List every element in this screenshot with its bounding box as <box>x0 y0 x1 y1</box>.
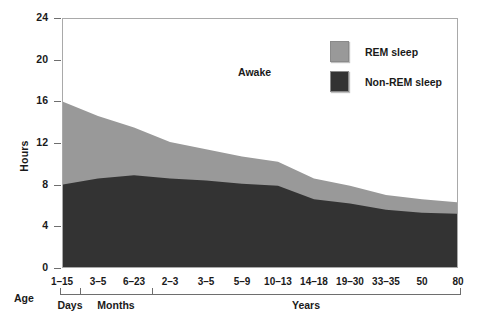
x-tick-label-7: 14–18 <box>300 276 328 287</box>
x-group-label-years: Years <box>292 299 320 311</box>
x-tick-label-6: 10–13 <box>264 276 292 287</box>
y-tick-mark-4 <box>54 226 61 227</box>
legend-label-non-rem-sleep: Non-REM sleep <box>365 76 442 88</box>
y-tick-label-8: 8 <box>22 178 48 190</box>
x-tick-label-9: 33–35 <box>372 276 400 287</box>
legend-item-rem-sleep: REM sleep <box>330 41 418 62</box>
y-tick-label-16: 16 <box>22 94 48 106</box>
x-tick-label-10: 50 <box>416 276 427 287</box>
x-tick-label-3: 2–3 <box>162 276 179 287</box>
x-group-bracket-line-1 <box>80 294 152 295</box>
x-tick-label-11: 80 <box>452 276 463 287</box>
y-tick-mark-8 <box>54 185 61 186</box>
y-tick-mark-0 <box>54 268 61 269</box>
x-tick-label-0: 1–15 <box>51 276 73 287</box>
legend-swatch-non-rem-sleep <box>330 71 349 92</box>
x-group-label-months: Months <box>97 299 134 311</box>
awake-annotation: Awake <box>238 66 271 78</box>
y-tick-label-4: 4 <box>22 219 48 231</box>
y-tick-label-20: 20 <box>22 53 48 65</box>
x-group-bracket-line-0 <box>60 294 80 295</box>
sleep-hours-area-chart: Hours 24201612840 Awake REM sleep Non-RE… <box>0 0 480 330</box>
x-axis-title: Age <box>14 292 34 304</box>
x-tick-label-1: 3–5 <box>90 276 107 287</box>
y-tick-mark-20 <box>54 60 61 61</box>
x-group-bracket-line-2 <box>152 294 460 295</box>
legend-label-rem-sleep: REM sleep <box>365 46 418 58</box>
area-non-rem-sleep <box>63 175 457 267</box>
x-group-label-days: Days <box>57 299 82 311</box>
x-group-bracket-tick-1-0 <box>80 288 81 295</box>
y-tick-mark-24 <box>54 18 61 19</box>
legend-swatch-rem-sleep <box>330 41 349 62</box>
x-group-bracket-tick-0-0 <box>60 288 61 295</box>
x-group-bracket-tick-2-0 <box>152 288 153 295</box>
x-tick-label-4: 3–5 <box>198 276 215 287</box>
y-tick-label-0: 0 <box>22 261 48 273</box>
x-tick-label-2: 6–23 <box>123 276 145 287</box>
legend-item-non-rem-sleep: Non-REM sleep <box>330 71 442 92</box>
x-group-bracket-tick-2-1 <box>460 288 461 295</box>
y-tick-mark-12 <box>54 143 61 144</box>
y-tick-mark-16 <box>54 101 61 102</box>
x-tick-label-5: 5–9 <box>234 276 251 287</box>
y-tick-label-24: 24 <box>22 11 48 23</box>
x-tick-label-8: 19–30 <box>336 276 364 287</box>
y-tick-label-12: 12 <box>22 136 48 148</box>
